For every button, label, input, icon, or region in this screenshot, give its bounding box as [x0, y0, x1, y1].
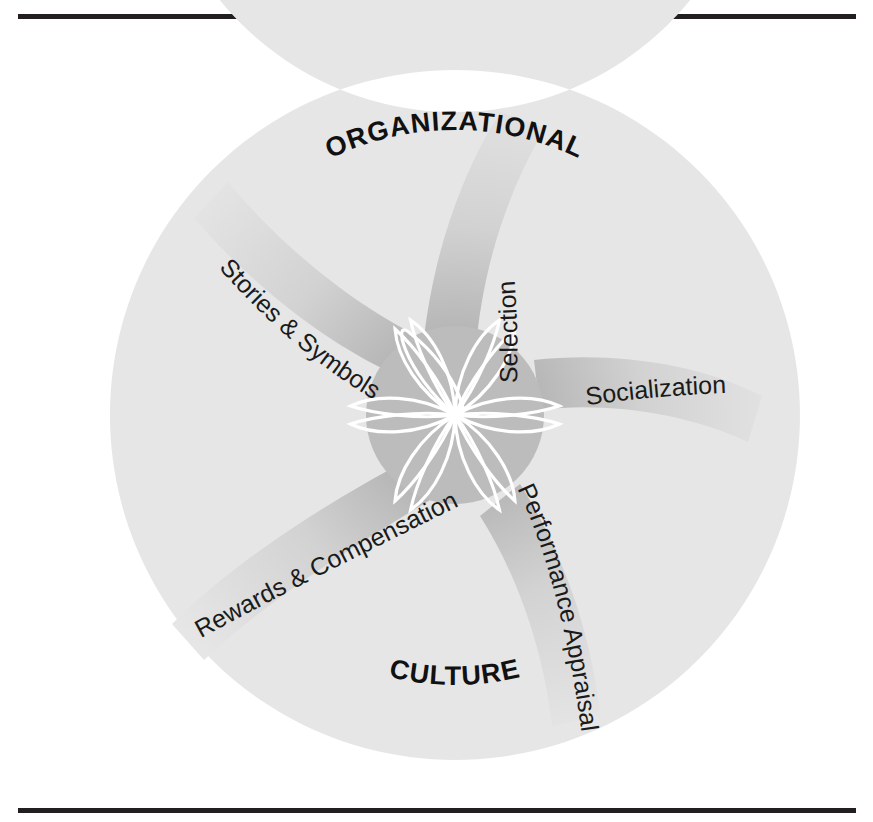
figure-canvas: ORGANIZATIONAL CULTURE Selection Sociali…	[0, 0, 873, 822]
bottom-divider-rule	[18, 808, 856, 813]
spoke-label-selection: Selection	[492, 280, 523, 383]
organizational-culture-wheel: ORGANIZATIONAL CULTURE Selection Sociali…	[0, 0, 873, 822]
